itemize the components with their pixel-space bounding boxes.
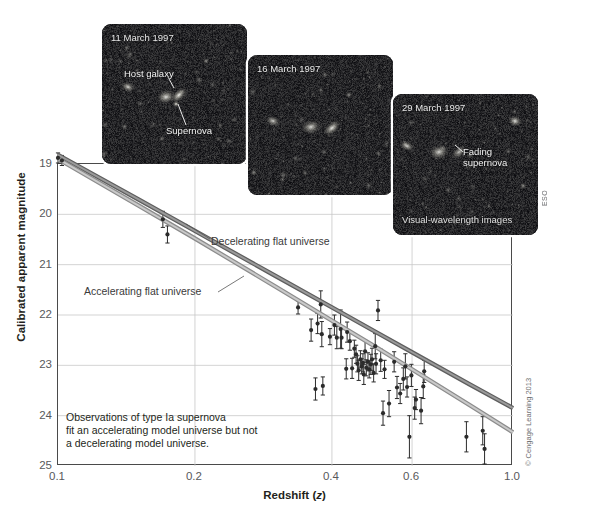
panel-1-host-galaxy-label: Host galaxy	[124, 68, 174, 79]
cengage-copyright: © Cengage Learning 2013	[524, 378, 533, 466]
annotation-line-2: fit an accelerating model universe but n…	[66, 424, 257, 437]
x-tick-1.0: 1.0	[504, 470, 520, 482]
fading-label-line-1: Fading	[463, 146, 507, 157]
x-tick-0.6: 0.6	[403, 470, 419, 482]
supernova-image-panel-1: 11 March 1997 Host galaxy Supernova	[102, 24, 247, 164]
fading-label-line-2: supernova	[463, 157, 507, 168]
y-tick-21: 21	[39, 258, 52, 270]
supernova-image-panel-2: 16 March 1997	[248, 55, 393, 195]
x-axis-title-text: Redshift (	[263, 489, 316, 501]
eso-credit: ESO	[541, 190, 548, 206]
panel-1-leader-lines	[102, 24, 247, 164]
y-tick-19: 19	[39, 157, 52, 169]
panel-3-fading-supernova-label: Fading supernova	[463, 146, 507, 168]
panel-3-wavelength-note: Visual-wavelength images	[402, 214, 512, 225]
panel-2-date: 16 March 1997	[257, 63, 320, 74]
annotation-line-3: a decelerating model universe.	[66, 437, 257, 450]
y-tick-24: 24	[39, 409, 52, 421]
x-tick-0.4: 0.4	[323, 470, 339, 482]
panel-1-supernova-label: Supernova	[166, 125, 212, 136]
supernova-hubble-diagram-figure: 19202122232425 Calibrated apparent magni…	[0, 0, 589, 513]
supernova-image-panel-3: 29 March 1997 Fading supernova Visual-wa…	[393, 94, 538, 235]
x-tick-0.1: 0.1	[49, 470, 65, 482]
y-axis-title: Calibrated apparent magnitude	[15, 132, 27, 382]
y-tick-20: 20	[39, 207, 52, 219]
decelerating-curve-label: Decelerating flat universe	[211, 235, 329, 247]
sky-image-2	[248, 55, 393, 195]
panel-3-date: 29 March 1997	[402, 102, 465, 113]
annotation-line-1: Observations of type Ia supernova	[66, 411, 257, 424]
panel-1-date: 11 March 1997	[111, 32, 174, 43]
x-axis-title: Redshift (z)	[0, 489, 589, 501]
y-tick-23: 23	[39, 358, 52, 370]
chart-annotation-text: Observations of type Ia supernova fit an…	[66, 411, 257, 451]
x-axis-title-close: )	[322, 489, 326, 501]
y-tick-22: 22	[39, 308, 52, 320]
x-tick-0.2: 0.2	[186, 470, 202, 482]
accelerating-curve-label: Accelerating flat universe	[84, 285, 201, 297]
